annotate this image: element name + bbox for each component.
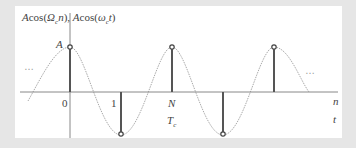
y-axis-label: Acos(Ωcn), Acos(ωct) bbox=[22, 12, 116, 26]
ellipsis-right: … bbox=[305, 65, 316, 76]
ellipsis-left: … bbox=[24, 61, 35, 72]
amplitude-label: A bbox=[56, 39, 63, 50]
tick-one: 1 bbox=[111, 98, 117, 109]
tick-zero: 0 bbox=[62, 98, 68, 109]
x-axis-label-t: t bbox=[333, 114, 336, 125]
x-axis-label-n: n bbox=[333, 96, 339, 107]
tick-Tc: Tc bbox=[167, 115, 176, 129]
tick-N: N bbox=[168, 98, 175, 109]
